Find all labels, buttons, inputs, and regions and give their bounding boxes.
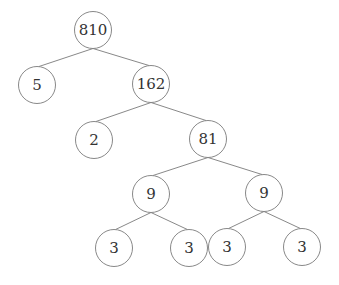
tree-edge-n9a-n3a: [116, 213, 151, 230]
tree-edge-n810-n5: [39, 49, 93, 67]
tree-node-81: 81: [190, 121, 227, 158]
tree-edge-n81-n9b: [208, 158, 262, 175]
node-label: 2: [89, 131, 99, 149]
tree-node-5: 5: [19, 67, 56, 104]
factor-tree-canvas: 8105162281993333: [0, 0, 339, 285]
node-label: 9: [259, 184, 269, 202]
tree-node-3: 3: [96, 230, 133, 267]
tree-edge-n162-n2: [96, 103, 151, 122]
node-label: 3: [222, 238, 232, 256]
tree-node-810: 810: [75, 12, 112, 49]
node-label: 9: [146, 185, 156, 203]
node-label: 3: [109, 239, 119, 257]
tree-edge-n162-n81: [151, 103, 206, 121]
tree-node-3: 3: [171, 230, 208, 267]
tree-edge-n810-n162: [93, 49, 149, 66]
node-label: 3: [184, 239, 194, 257]
tree-node-2: 2: [76, 122, 113, 159]
tree-edge-n9a-n3b: [151, 213, 187, 230]
node-label: 810: [79, 21, 108, 39]
tree-node-9: 9: [133, 176, 170, 213]
node-label: 5: [32, 76, 42, 94]
tree-node-3: 3: [284, 229, 321, 266]
factor-tree-diagram: 8105162281993333: [0, 0, 339, 285]
tree-nodes: 8105162281993333: [19, 12, 321, 267]
node-label: 81: [198, 130, 217, 148]
tree-node-9: 9: [246, 175, 283, 212]
tree-node-162: 162: [133, 66, 170, 103]
tree-edge-n9b-n3c: [229, 212, 264, 229]
tree-node-3: 3: [209, 229, 246, 266]
node-label: 3: [297, 238, 307, 256]
tree-edge-n9b-n3d: [264, 212, 300, 229]
node-label: 162: [137, 75, 166, 93]
tree-edge-n81-n9a: [153, 158, 208, 176]
